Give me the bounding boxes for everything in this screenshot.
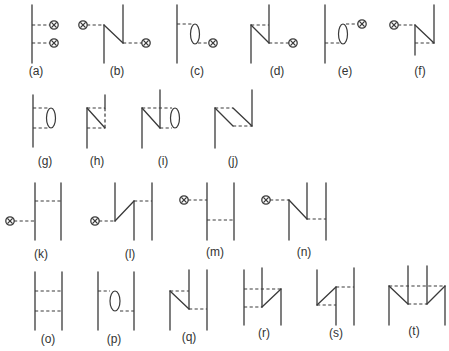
- crossed-circle-icon: [142, 39, 150, 47]
- loop-icon: [339, 24, 348, 44]
- solid-line: [251, 25, 269, 43]
- solid-line: [233, 108, 252, 126]
- solid-line: [415, 25, 434, 43]
- crossed-circle-icon: [262, 196, 270, 204]
- diagram-k: (k): [6, 183, 61, 261]
- diagram-label: (s): [329, 326, 343, 340]
- solid-line: [262, 289, 281, 307]
- crossed-circle-icon: [390, 21, 398, 29]
- diagram-label: (l): [125, 247, 136, 261]
- crossed-circle-icon: [358, 20, 366, 28]
- diagram-j: (j): [215, 90, 252, 168]
- diagram-label: (n): [297, 245, 312, 259]
- crossed-circle-icon: [91, 217, 99, 225]
- solid-line: [427, 286, 445, 304]
- diagram-e: (e): [325, 5, 366, 78]
- diagram-label: (g): [38, 154, 53, 168]
- crossed-circle-icon: [180, 196, 188, 204]
- solid-line: [389, 286, 408, 304]
- crossed-circle-icon: [6, 217, 14, 225]
- crossed-circle-icon: [50, 39, 58, 47]
- loop-icon: [171, 108, 180, 128]
- solid-line: [142, 108, 160, 128]
- diagram-label: (q): [182, 330, 197, 344]
- solid-line: [115, 201, 134, 221]
- diagram-h: (h): [87, 95, 105, 168]
- diagram-l: (l): [91, 183, 152, 261]
- solid-line: [170, 291, 189, 309]
- diagram-label: (k): [34, 247, 48, 261]
- diagram-p: (p): [98, 272, 134, 346]
- diagram-r: (r): [244, 268, 281, 340]
- diagram-label: (p): [107, 332, 122, 346]
- solid-line: [289, 200, 307, 219]
- diagram-label: (d): [270, 64, 285, 78]
- diagram-label: (m): [206, 245, 224, 259]
- diagram-s: (s): [317, 268, 354, 340]
- diagram-t: (t): [389, 266, 445, 338]
- diagram-label: (o): [41, 332, 56, 346]
- diagram-label: (f): [414, 64, 425, 78]
- diagram-c: (c): [177, 5, 217, 78]
- diagram-label: (j): [228, 154, 239, 168]
- diagram-label: (a): [29, 64, 44, 78]
- diagram-m: (m): [180, 183, 234, 259]
- loop-icon: [191, 24, 200, 44]
- diagram-n: (n): [262, 183, 326, 259]
- diagram-f: (f): [390, 5, 434, 78]
- diagram-canvas: (a)(b)(c)(d)(e)(f)(g)(h)(i)(j)(k)(l)(m)(…: [0, 0, 449, 351]
- diagram-q: (q): [170, 270, 207, 344]
- diagram-o: (o): [35, 272, 62, 346]
- crossed-circle-icon: [79, 21, 87, 29]
- solid-line: [87, 108, 105, 128]
- loop-icon: [110, 291, 120, 311]
- diagram-label: (i): [158, 154, 169, 168]
- crossed-circle-icon: [209, 39, 217, 47]
- crossed-circle-icon: [289, 39, 297, 47]
- solid-line: [104, 25, 123, 43]
- diagram-label: (e): [338, 64, 353, 78]
- solid-line: [215, 108, 233, 126]
- diagram-a: (a): [29, 5, 59, 78]
- diagram-label: (h): [90, 154, 105, 168]
- diagram-label: (t): [408, 324, 419, 338]
- diagram-b: (b): [79, 5, 150, 78]
- loop-icon: [47, 108, 56, 128]
- diagram-label: (b): [110, 64, 125, 78]
- solid-line: [317, 287, 336, 305]
- diagram-label: (r): [258, 326, 270, 340]
- diagram-label: (c): [190, 64, 204, 78]
- crossed-circle-icon: [50, 21, 58, 29]
- diagram-g: (g): [33, 95, 56, 168]
- diagram-d: (d): [251, 5, 297, 78]
- diagram-i: (i): [142, 90, 180, 168]
